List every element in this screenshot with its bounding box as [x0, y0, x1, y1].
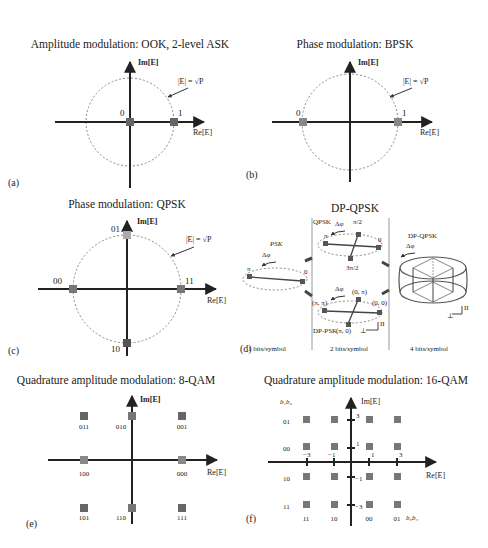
symbol-point [394, 443, 401, 450]
phase-label-0-0: (0, 0) [372, 299, 388, 307]
col-label: 11 [303, 515, 310, 523]
symbol-point [303, 473, 310, 480]
panel-c-qpsk: Phase modulation: QPSK Im[E] Re[E] |E| =… [8, 198, 226, 357]
panel-d-title: DP-QPSK [331, 202, 380, 214]
rotation-arrow [331, 296, 345, 300]
psk-label: PSK [269, 240, 283, 248]
symbol-point [331, 443, 338, 450]
phase-label-pi: π [324, 232, 328, 240]
link-bar [382, 290, 389, 294]
dp-qpsk-label: DP-QPSK [408, 232, 437, 240]
qpsk-section: QPSK Δφ π/2 π 0 3π/2 Δφ (0, π) [312, 218, 389, 353]
x-tick-label: 1 [371, 451, 375, 459]
pol-parallel-label: II [464, 304, 469, 312]
y-tick-label: −1 [355, 475, 363, 483]
point-label-10: 10 [111, 344, 121, 354]
pol-parallel-label: II [380, 320, 385, 328]
symbol-point [366, 501, 373, 508]
point-label-101: 101 [79, 514, 90, 522]
point-label-100: 100 [79, 470, 90, 478]
cylinder-side [399, 268, 400, 292]
re-axis-label: Re[E] [193, 128, 212, 137]
symbol-point [303, 501, 310, 508]
dp-psk-point [356, 297, 361, 302]
re-axis-label: Re[E] [207, 296, 226, 305]
panel-a-title: Amplitude modulation: OOK, 2-level ASK [31, 38, 230, 51]
symbol-point-000 [178, 456, 186, 464]
delta-phi-label: Δφ [262, 251, 271, 259]
symbol-point [394, 473, 401, 480]
circle-label: |E| = √P [186, 235, 212, 244]
row-label: 11 [283, 503, 290, 511]
panel-e-8qam: Quadrature amplitude modulation: 8-QAM I… [17, 374, 227, 530]
symbol-point-11 [177, 285, 185, 293]
col-label: 01 [394, 515, 402, 523]
dp-qpsk-section: DP-QPSK Δφ ⊥ II 4 bits/symbol [399, 232, 469, 353]
circle-label: |E| = √P [403, 77, 429, 86]
panel-label-b: (b) [246, 169, 258, 181]
modulation-constellation-figure: Amplitude modulation: OOK, 2-level ASK I… [0, 0, 488, 548]
im-axis-label: Im[E] [361, 397, 380, 406]
psk-point-pi [247, 274, 252, 279]
symbol-point [366, 473, 373, 480]
pol-perp-label: ⊥ [447, 312, 454, 320]
point-label-011: 011 [79, 423, 90, 431]
re-axis-label: Re[E] [426, 471, 445, 480]
symbol-point-00 [69, 285, 77, 293]
panel-label-d: (d) [240, 343, 252, 355]
point-label-0: 0 [120, 108, 125, 118]
qpsk-label: QPSK [313, 218, 331, 226]
panel-e-title: Quadrature amplitude modulation: 8-QAM [17, 374, 215, 387]
row-bits-label: b₁b₂ [280, 398, 292, 406]
symbol-point-011 [80, 412, 88, 420]
im-axis-label: Im[E] [137, 217, 158, 226]
link-bar [305, 291, 312, 296]
qpsk-point [323, 241, 328, 246]
symbol-point-001 [178, 412, 186, 420]
panel-a-ook: Amplitude modulation: OOK, 2-level ASK I… [8, 38, 230, 189]
qpsk-point [348, 256, 353, 261]
panel-d-dpqpsk: DP-QPSK PSK Δφ π 0 1 bits/symbol QPSK Δφ… [240, 202, 469, 355]
point-label-0: 0 [296, 108, 301, 118]
point-label-00: 00 [53, 276, 63, 286]
dp-psk-point [322, 308, 327, 313]
row-label: 10 [283, 475, 291, 483]
circle-label: |E| = √P [178, 77, 204, 86]
symbol-point-10 [123, 339, 131, 347]
symbol-point-0 [126, 118, 134, 126]
row-label: 01 [283, 418, 291, 426]
symbol-point-010 [128, 412, 136, 420]
rotation-arrow [262, 262, 276, 266]
pol-perp-label: ⊥ [360, 327, 367, 335]
pointer-arrow [390, 88, 412, 97]
point-label-010: 010 [116, 423, 127, 431]
point-label-11: 11 [185, 276, 194, 286]
symbol-point-111 [178, 504, 186, 512]
dp-psk-label: DP-PSK [313, 327, 337, 335]
y-tick-label: 3 [356, 412, 360, 420]
dp-psk-point [377, 310, 382, 315]
panel-label-a: (a) [8, 177, 19, 189]
panel-b-bpsk: Phase modulation: BPSK Im[E] Re[E] |E| =… [246, 38, 439, 182]
panel-c-title: Phase modulation: QPSK [68, 198, 186, 210]
x-tick-label: −3 [303, 451, 311, 459]
phase-label-pi-2: π/2 [353, 218, 362, 226]
point-label-000: 000 [177, 470, 188, 478]
phase-label-0: 0 [304, 268, 308, 276]
row-label: 00 [283, 445, 291, 453]
footer-2bit: 2 bits/symbol [330, 345, 368, 353]
point-label-1: 1 [402, 108, 407, 118]
symbol-point [303, 416, 310, 423]
qpsk-point [356, 232, 361, 237]
phase-label-0-pi: (0, π) [352, 288, 368, 296]
re-axis-label: Re[E] [420, 128, 439, 137]
re-axis-label: Re[E] [207, 468, 226, 477]
symbol-point [331, 501, 338, 508]
point-label-01: 01 [111, 224, 120, 234]
y-tick-label: 1 [356, 440, 360, 448]
phase-label-pi-pi: (π, π) [312, 299, 328, 307]
panel-label-e: (e) [26, 518, 37, 530]
qpsk-vector-v [350, 235, 358, 258]
polarization-axes [366, 322, 378, 330]
psk-point-0 [300, 279, 305, 284]
